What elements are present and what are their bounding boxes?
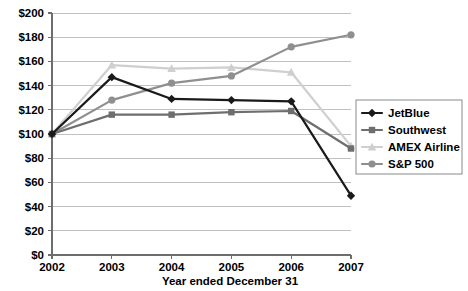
legend-label: S&P 500 xyxy=(388,158,434,170)
x-axis-tick-labels: 200220032004200520062007 xyxy=(39,261,364,273)
x-tick-label-2003: 2003 xyxy=(99,261,125,273)
axes xyxy=(48,13,351,259)
y-tick-label-120: $120 xyxy=(18,104,44,116)
x-axis-title: Year ended December 31 xyxy=(162,275,299,287)
series-jetblue xyxy=(48,73,355,200)
marker-square xyxy=(348,145,354,151)
y-tick-label-160: $160 xyxy=(18,55,44,67)
marker-circle xyxy=(288,43,295,50)
series-amex-airline xyxy=(48,61,356,150)
marker-circle xyxy=(228,72,235,79)
marker-circle xyxy=(368,160,375,167)
legend-label: JetBlue xyxy=(388,107,430,119)
y-tick-label-40: $40 xyxy=(25,201,44,213)
x-tick-label-2004: 2004 xyxy=(159,261,185,273)
gridlines xyxy=(52,13,351,231)
marker-square xyxy=(168,111,174,117)
stock-performance-chart: $0$20$40$60$80$100$120$140$160$180$200 2… xyxy=(0,0,468,291)
data-series xyxy=(48,31,356,200)
x-tick-label-2002: 2002 xyxy=(39,261,65,273)
legend-label: AMEX Airline xyxy=(388,141,460,153)
y-tick-label-80: $80 xyxy=(25,152,44,164)
chart-legend: JetBlueSouthwestAMEX AirlineS&P 500 xyxy=(356,100,462,174)
x-tick-label-2007: 2007 xyxy=(338,261,364,273)
marker-square xyxy=(288,108,294,114)
marker-square xyxy=(228,109,234,115)
y-tick-label-140: $140 xyxy=(18,80,44,92)
marker-diamond xyxy=(227,96,235,104)
series-line xyxy=(52,77,351,196)
marker-square xyxy=(369,127,375,133)
y-tick-label-20: $20 xyxy=(25,225,44,237)
marker-circle xyxy=(108,97,115,104)
marker-circle xyxy=(168,80,175,87)
y-tick-label-0: $0 xyxy=(31,249,44,261)
marker-square xyxy=(109,111,115,117)
series-line xyxy=(52,111,351,149)
marker-diamond xyxy=(167,95,175,103)
y-tick-label-200: $200 xyxy=(18,7,44,19)
marker-circle xyxy=(347,31,354,38)
y-tick-label-60: $60 xyxy=(25,176,44,188)
x-tick-label-2005: 2005 xyxy=(219,261,245,273)
chart-canvas: $0$20$40$60$80$100$120$140$160$180$200 2… xyxy=(0,0,468,291)
y-axis-tick-labels: $0$20$40$60$80$100$120$140$160$180$200 xyxy=(18,7,44,261)
x-tick-label-2006: 2006 xyxy=(278,261,304,273)
y-tick-label-180: $180 xyxy=(18,31,44,43)
y-tick-label-100: $100 xyxy=(18,128,44,140)
legend-label: Southwest xyxy=(388,124,446,136)
